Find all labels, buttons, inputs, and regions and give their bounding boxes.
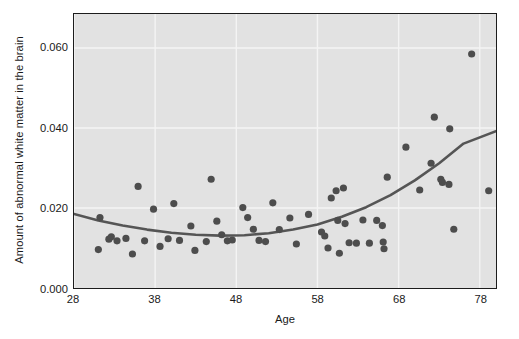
x-tick-label: 28	[53, 293, 93, 305]
x-axis-title: Age	[73, 313, 497, 325]
plot-svg	[74, 14, 496, 288]
x-tick-label: 48	[216, 293, 256, 305]
plot-area	[73, 13, 497, 289]
x-tick-label: 68	[379, 293, 419, 305]
x-tick-label: 78	[461, 293, 501, 305]
y-axis-tick-labels: 0.0000.0200.0400.060	[16, 0, 68, 339]
data-points	[95, 50, 493, 257]
x-tick-label: 58	[298, 293, 338, 305]
y-tick-label: 0.020	[22, 202, 68, 214]
y-tick-label: 0.040	[22, 122, 68, 134]
x-tick-label: 38	[135, 293, 175, 305]
y-tick-label: 0.060	[22, 41, 68, 53]
chart-figure: Amount of abnormal white matter in the b…	[0, 0, 519, 339]
gridlines	[74, 14, 496, 288]
